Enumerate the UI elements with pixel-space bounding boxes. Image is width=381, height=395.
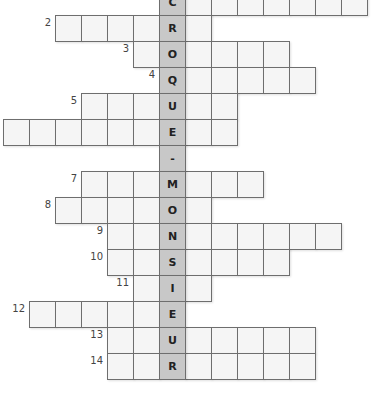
answer-cell[interactable] <box>289 353 316 380</box>
clue-number: 3 <box>109 43 129 54</box>
answer-cell[interactable] <box>81 15 108 42</box>
answer-cell[interactable] <box>315 223 342 250</box>
key-letter: I <box>160 276 185 301</box>
answer-cell[interactable] <box>133 301 160 328</box>
answer-cell[interactable] <box>185 67 212 94</box>
answer-cell[interactable] <box>107 119 134 146</box>
answer-cell[interactable] <box>133 197 160 224</box>
crossword-grid: 1C2R3O4Q5UE-7M8O9N10S11I12E13U14R <box>0 0 381 395</box>
answer-cell[interactable] <box>55 301 82 328</box>
answer-cell[interactable] <box>133 353 160 380</box>
answer-cell[interactable] <box>133 93 160 120</box>
answer-cell[interactable] <box>185 41 212 68</box>
answer-cell[interactable] <box>185 119 212 146</box>
answer-cell[interactable] <box>211 327 238 354</box>
key-cell: E <box>159 301 186 328</box>
answer-cell[interactable] <box>107 93 134 120</box>
answer-cell[interactable] <box>211 119 238 146</box>
clue-number: 13 <box>83 329 103 340</box>
answer-cell[interactable] <box>107 353 134 380</box>
answer-cell[interactable] <box>263 0 290 16</box>
answer-cell[interactable] <box>211 223 238 250</box>
answer-cell[interactable] <box>55 15 82 42</box>
answer-cell[interactable] <box>211 0 238 16</box>
answer-cell[interactable] <box>107 171 134 198</box>
answer-cell[interactable] <box>263 67 290 94</box>
key-cell: O <box>159 197 186 224</box>
answer-cell[interactable] <box>185 249 212 276</box>
clue-number: 5 <box>57 95 77 106</box>
key-letter: E <box>160 120 185 145</box>
answer-cell[interactable] <box>133 15 160 42</box>
answer-cell[interactable] <box>237 223 264 250</box>
answer-cell[interactable] <box>3 119 30 146</box>
answer-cell[interactable] <box>107 15 134 42</box>
answer-cell[interactable] <box>29 119 56 146</box>
answer-cell[interactable] <box>107 223 134 250</box>
answer-cell[interactable] <box>81 119 108 146</box>
answer-cell[interactable] <box>55 119 82 146</box>
answer-cell[interactable] <box>263 249 290 276</box>
answer-cell[interactable] <box>237 67 264 94</box>
answer-cell[interactable] <box>185 275 212 302</box>
answer-cell[interactable] <box>133 327 160 354</box>
key-cell: C <box>159 0 186 16</box>
answer-cell[interactable] <box>185 171 212 198</box>
answer-cell[interactable] <box>107 301 134 328</box>
answer-cell[interactable] <box>133 41 160 68</box>
clue-number: 9 <box>83 225 103 236</box>
key-cell: U <box>159 327 186 354</box>
answer-cell[interactable] <box>185 223 212 250</box>
answer-cell[interactable] <box>55 197 82 224</box>
answer-cell[interactable] <box>263 223 290 250</box>
answer-cell[interactable] <box>185 0 212 16</box>
answer-cell[interactable] <box>263 327 290 354</box>
clue-number: 10 <box>83 251 103 262</box>
key-cell: M <box>159 171 186 198</box>
answer-cell[interactable] <box>185 93 212 120</box>
answer-cell[interactable] <box>237 0 264 16</box>
answer-cell[interactable] <box>133 223 160 250</box>
key-letter: Q <box>160 68 185 93</box>
answer-cell[interactable] <box>289 327 316 354</box>
answer-cell[interactable] <box>211 67 238 94</box>
answer-cell[interactable] <box>237 171 264 198</box>
answer-cell[interactable] <box>211 171 238 198</box>
key-cell: R <box>159 353 186 380</box>
answer-cell[interactable] <box>107 249 134 276</box>
clue-number: 4 <box>135 69 155 80</box>
answer-cell[interactable] <box>211 249 238 276</box>
answer-cell[interactable] <box>185 353 212 380</box>
answer-cell[interactable] <box>263 41 290 68</box>
answer-cell[interactable] <box>133 119 160 146</box>
answer-cell[interactable] <box>341 0 368 16</box>
answer-cell[interactable] <box>237 41 264 68</box>
answer-cell[interactable] <box>211 41 238 68</box>
answer-cell[interactable] <box>107 197 134 224</box>
answer-cell[interactable] <box>185 327 212 354</box>
key-letter: M <box>160 172 185 197</box>
answer-cell[interactable] <box>263 353 290 380</box>
key-cell: I <box>159 275 186 302</box>
answer-cell[interactable] <box>211 93 238 120</box>
answer-cell[interactable] <box>107 327 134 354</box>
answer-cell[interactable] <box>133 171 160 198</box>
answer-cell[interactable] <box>237 353 264 380</box>
answer-cell[interactable] <box>315 0 342 16</box>
clue-number: 12 <box>5 303 25 314</box>
answer-cell[interactable] <box>81 93 108 120</box>
answer-cell[interactable] <box>237 249 264 276</box>
answer-cell[interactable] <box>81 171 108 198</box>
answer-cell[interactable] <box>289 223 316 250</box>
answer-cell[interactable] <box>289 67 316 94</box>
answer-cell[interactable] <box>289 0 316 16</box>
answer-cell[interactable] <box>29 301 56 328</box>
answer-cell[interactable] <box>211 353 238 380</box>
answer-cell[interactable] <box>81 301 108 328</box>
answer-cell[interactable] <box>185 197 212 224</box>
answer-cell[interactable] <box>81 197 108 224</box>
answer-cell[interactable] <box>133 275 160 302</box>
answer-cell[interactable] <box>185 15 212 42</box>
answer-cell[interactable] <box>133 249 160 276</box>
answer-cell[interactable] <box>237 327 264 354</box>
